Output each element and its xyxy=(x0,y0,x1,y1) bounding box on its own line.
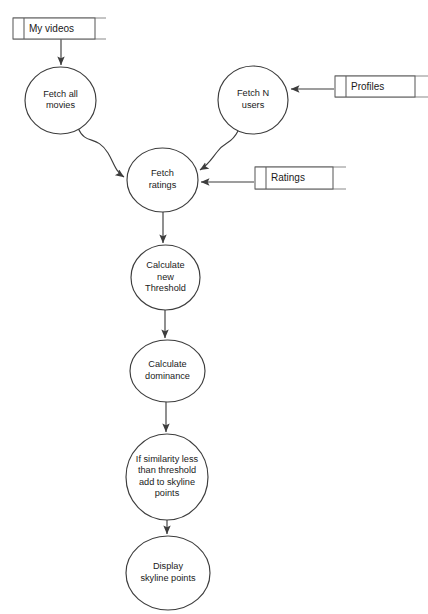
process-node-display-skyline-points: Displayskyline points xyxy=(126,536,210,610)
process-node-fetch-all-movies: Fetch allmovies xyxy=(25,67,96,134)
process-label: Fetchratings xyxy=(149,169,177,190)
process-node-if-similarity-less-than-threshold: If similarity lessthan thresholdadd to s… xyxy=(126,434,208,520)
process-label: Calculatedominance xyxy=(145,360,190,381)
data-store-profiles: Profiles xyxy=(335,76,428,97)
data-store-label: My videos xyxy=(29,23,74,34)
data-store-ratings: Ratings xyxy=(255,167,346,189)
process-node-calculate-new-threshold: CalculatenewThreshold xyxy=(131,245,200,310)
process-node-fetch-n-users: Fetch Nusers xyxy=(218,66,288,134)
process-node-fetch-ratings: Fetchratings xyxy=(127,148,198,212)
data-store-label: Ratings xyxy=(271,172,305,183)
process-node-calculate-dominance: Calculatedominance xyxy=(130,340,205,402)
flow-diagram-canvas: My videosProfilesRatings Fetch allmovies… xyxy=(0,0,428,614)
data-flow-diagram: My videosProfilesRatings Fetch allmovies… xyxy=(0,0,428,614)
flow-arrow xyxy=(78,128,124,177)
flow-arrow xyxy=(200,131,238,170)
process-label: Fetch allmovies xyxy=(43,89,78,110)
data-store-label: Profiles xyxy=(351,81,384,92)
data-store-my-videos: My videos xyxy=(13,18,106,39)
process-nodes-group: Fetch allmoviesFetch NusersFetchratingsC… xyxy=(25,66,288,610)
